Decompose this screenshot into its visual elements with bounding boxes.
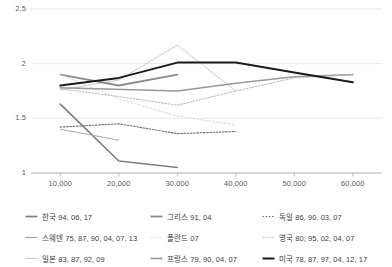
- legend-label-japan: 일본 83, 87, 92, 09: [42, 253, 105, 264]
- series-line-korea: [60, 104, 177, 167]
- legend-label-france: 프랑스 79, 90, 04, 07: [167, 253, 237, 264]
- series-line-sweden: [60, 129, 119, 140]
- plot-svg: [0, 0, 392, 200]
- x-tick-label: 20,000: [97, 179, 141, 188]
- legend-label-korea: 한국 94, 06, 17: [42, 211, 92, 222]
- line-chart: 11.522.5 10,00020,00030,00040,00050,0006…: [0, 0, 392, 267]
- x-tick-label: 60,000: [331, 179, 375, 188]
- x-tick-label: 10,000: [38, 179, 82, 188]
- legend-item-greece[interactable]: 그리스 91, 04: [150, 211, 211, 222]
- legend-swatch-germany: [262, 212, 275, 221]
- legend-swatch-greece: [150, 212, 163, 221]
- y-tick-label: 1.5: [2, 113, 26, 122]
- x-tick-label: 50,000: [272, 179, 316, 188]
- legend-swatch-japan: [25, 254, 38, 263]
- legend-label-germany: 독일 86, 90, 03, 07: [279, 211, 342, 222]
- legend-swatch-france: [150, 254, 163, 263]
- legend-swatch-poland: [150, 233, 163, 242]
- y-tick-label: 2.5: [2, 4, 26, 13]
- legend-label-usa: 미국 78, 87, 97, 04, 12, 17: [279, 253, 367, 264]
- legend-item-sweden[interactable]: 스웨덴 75, 87, 90, 04, 07, 13: [25, 232, 137, 243]
- legend-item-germany[interactable]: 독일 86, 90, 03, 07: [262, 211, 342, 222]
- legend-item-uk[interactable]: 영국 80, 95, 02, 04, 07: [262, 232, 355, 243]
- legend-item-japan[interactable]: 일본 83, 87, 92, 09: [25, 253, 105, 264]
- legend-swatch-korea: [25, 212, 38, 221]
- legend-swatch-uk: [262, 233, 275, 242]
- series-line-japan: [60, 45, 236, 91]
- chart-legend: 한국 94, 06, 17그리스 91, 04독일 86, 90, 03, 07…: [0, 200, 392, 267]
- y-tick-label: 2: [2, 59, 26, 68]
- y-tick-label: 1: [2, 168, 26, 177]
- legend-item-usa[interactable]: 미국 78, 87, 97, 04, 12, 17: [262, 253, 367, 264]
- legend-item-france[interactable]: 프랑스 79, 90, 04, 07: [150, 253, 237, 264]
- x-tick-label: 40,000: [214, 179, 258, 188]
- legend-swatch-usa: [262, 254, 275, 263]
- legend-label-sweden: 스웨덴 75, 87, 90, 04, 07, 13: [42, 232, 137, 243]
- x-tick-label: 30,000: [155, 179, 199, 188]
- legend-swatch-sweden: [25, 233, 38, 242]
- legend-label-uk: 영국 80, 95, 02, 04, 07: [279, 232, 355, 243]
- legend-label-poland: 폴란드 07: [167, 232, 199, 243]
- legend-item-korea[interactable]: 한국 94, 06, 17: [25, 211, 92, 222]
- legend-item-poland[interactable]: 폴란드 07: [150, 232, 199, 243]
- legend-label-greece: 그리스 91, 04: [167, 211, 211, 222]
- plot-area: 11.522.5 10,00020,00030,00040,00050,0006…: [0, 0, 392, 200]
